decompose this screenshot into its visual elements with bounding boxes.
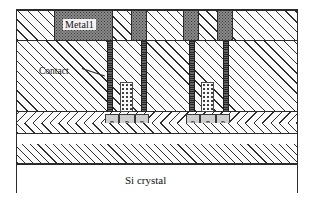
metal-block-4[interactable] [217,11,233,40]
plug-right[interactable] [201,82,214,112]
epitaxial-layer [17,144,297,164]
contact-label: Contact [39,66,69,76]
via-4[interactable] [223,41,229,112]
dope-p1[interactable]: p [119,114,135,132]
via-3[interactable] [189,41,195,112]
metal-block-2[interactable] [131,11,147,40]
dope-p3-label: p [221,119,225,127]
contact-dielectric-layer: Contact [17,41,297,112]
dope-p1-label: p [125,119,129,127]
dope-n2-label: n [140,119,144,127]
metal-1-band: Metal1 [17,10,297,41]
dope-p3[interactable]: p [216,114,230,132]
si-crystal-substrate: Si crystal [17,164,297,194]
device-cross-section-figure: Metal1 Contact n p n [0,0,313,202]
dope-n3-label: n [206,119,210,127]
dope-p2[interactable]: p [186,114,200,132]
dope-n1[interactable]: n [105,114,119,132]
figure-frame: Metal1 Contact n p n [16,9,298,193]
via-2[interactable] [141,41,147,112]
substrate-label: Si crystal [125,174,166,186]
dope-p2-label: p [191,119,195,127]
dope-n3[interactable]: n [200,114,216,132]
plug-left[interactable] [120,82,133,112]
field-oxide-layer: n p n p n p [17,112,297,134]
contact-leader-line [82,68,105,76]
dope-n1-label: n [110,119,114,127]
via-1[interactable] [107,41,113,112]
metal-layer-label: Metal1 [63,19,96,30]
metal-block-3[interactable] [183,11,199,40]
dope-n2[interactable]: n [135,114,149,132]
